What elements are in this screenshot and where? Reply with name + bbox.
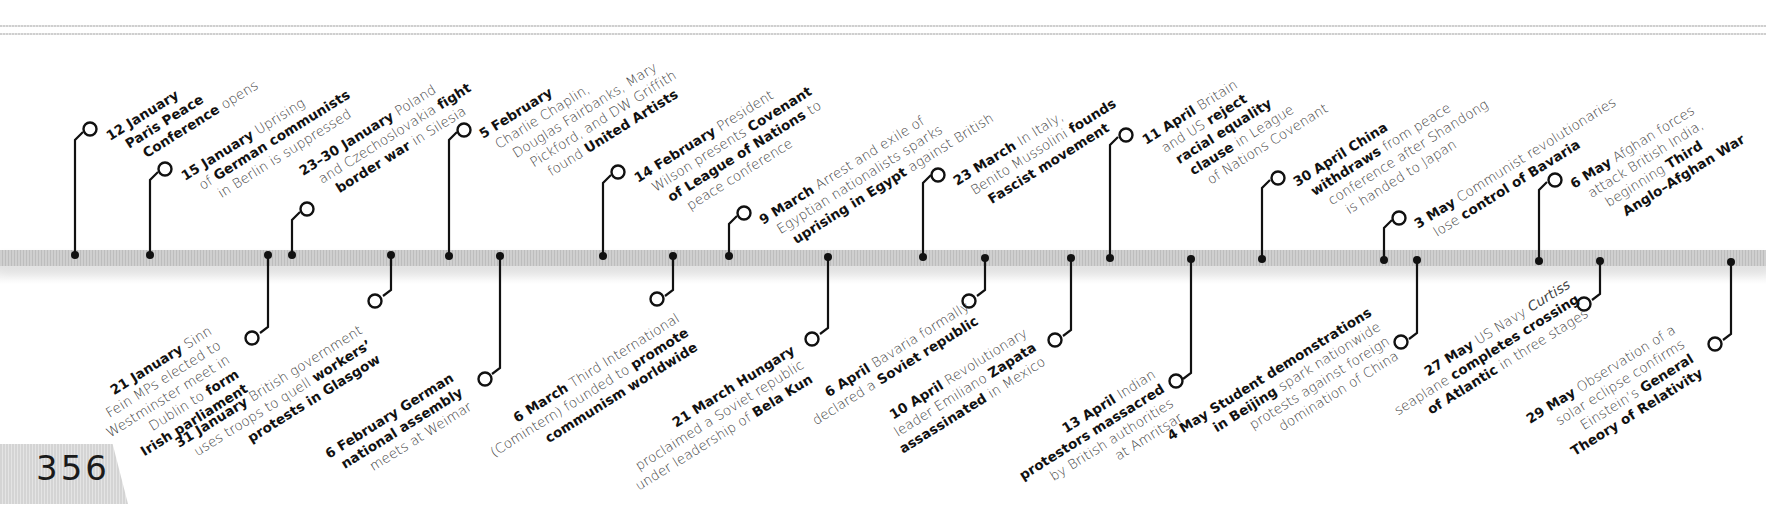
connector-14feb [603,175,611,256]
connector-29may [1723,262,1731,340]
connector-15jan [150,172,158,256]
connector-27may [1592,262,1600,300]
page-number: 356 [36,448,110,488]
connector-21jan [260,256,268,333]
connector-23jan [292,212,300,256]
connector-5feb [449,132,457,256]
connector-13apr [1183,259,1191,379]
connector-23mar [923,175,931,256]
connector-11apr [1110,137,1118,258]
connector-10apr [1063,258,1071,336]
connector-6may [1539,182,1547,261]
connector-12jan [75,132,83,256]
connector-9mar [729,216,737,256]
connector-4may [1409,261,1417,339]
connector-6mar [665,256,673,296]
connector-3may [1384,220,1392,260]
connector-21mar [820,257,828,334]
connector-30apr [1262,180,1270,259]
connector-6apr [977,258,985,296]
connector-6feb [492,256,500,374]
connector-31jan [383,256,391,296]
